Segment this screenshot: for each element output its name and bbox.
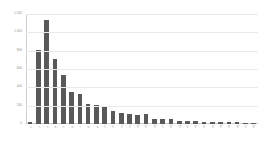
y-axis-tick-label: 0: [20, 122, 22, 125]
x-label-slot: 1: [26, 126, 34, 148]
bar[interactable]: [44, 20, 49, 124]
y-axis-tick-label: 400: [17, 86, 22, 89]
bar[interactable]: [102, 106, 107, 124]
gridline: [26, 32, 258, 33]
y-axis-tick-label: 800: [17, 49, 22, 52]
y-axis-tick-label: 200: [17, 104, 22, 107]
bar[interactable]: [86, 104, 91, 124]
bar[interactable]: [144, 114, 149, 124]
gridline: [26, 106, 258, 107]
bar[interactable]: [111, 111, 116, 124]
bar[interactable]: [127, 114, 132, 124]
x-axis-tick-labels: 1234567891011121314151617181920212223242…: [26, 126, 258, 148]
y-axis-tick-label: 1,200: [14, 12, 22, 15]
plot-area: [26, 14, 258, 124]
bar[interactable]: [119, 113, 124, 124]
bar[interactable]: [69, 92, 74, 124]
bar-chart: 1,2001,0008006004002000 1234567891011121…: [0, 0, 267, 149]
y-axis-tick-labels: 1,2001,0008006004002000: [0, 14, 24, 124]
bar[interactable]: [94, 105, 99, 124]
bar[interactable]: [61, 75, 66, 125]
gridline: [26, 69, 258, 70]
bar[interactable]: [78, 94, 83, 124]
gridline: [26, 87, 258, 88]
y-axis-tick-label: 600: [17, 67, 22, 70]
y-axis-tick-label: 1,000: [14, 31, 22, 34]
gridline: [26, 51, 258, 52]
gridline: [26, 14, 258, 15]
